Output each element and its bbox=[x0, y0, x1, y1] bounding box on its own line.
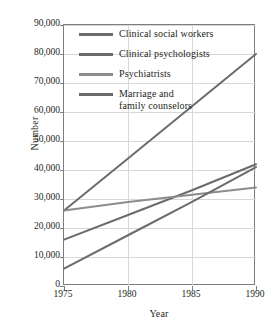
legend-label-marriage-and-family-counselors: Marriage and family counselors bbox=[119, 88, 192, 111]
series-line-psychiatrists bbox=[64, 187, 256, 210]
y-tick-label: 70,000 bbox=[14, 77, 60, 87]
legend-swatch-marriage-and-family-counselors bbox=[79, 93, 113, 96]
legend-swatch-clinical-psychologists bbox=[79, 53, 113, 56]
legend-item-psychiatrists: Psychiatrists bbox=[79, 68, 229, 83]
legend-label-clinical-social-workers: Clinical social workers bbox=[119, 28, 214, 40]
y-tick-label: 60,000 bbox=[14, 106, 60, 116]
series-line-marriage-and-family-counselors bbox=[64, 167, 256, 269]
legend-swatch-clinical-social-workers bbox=[79, 33, 113, 36]
legend-item-clinical-social-workers: Clinical social workers bbox=[79, 28, 229, 43]
legend-swatch-psychiatrists bbox=[79, 73, 113, 76]
x-tick-label: 1990 bbox=[235, 289, 273, 299]
y-tick-label: 50,000 bbox=[14, 135, 60, 145]
y-axis-tick-labels: 010,00020,00030,00040,00050,00060,00070,… bbox=[10, 0, 60, 326]
y-tick-label: 30,000 bbox=[14, 193, 60, 203]
x-tick-label: 1975 bbox=[43, 289, 83, 299]
line-chart: Number 010,00020,00030,00040,00050,00060… bbox=[0, 0, 273, 326]
legend-label-clinical-psychologists: Clinical psychologists bbox=[119, 48, 210, 60]
legend-item-marriage-and-family-counselors: Marriage and family counselors bbox=[79, 88, 229, 111]
legend-item-clinical-psychologists: Clinical psychologists bbox=[79, 48, 229, 63]
y-tick-label: 20,000 bbox=[14, 222, 60, 232]
y-tick-label: 90,000 bbox=[14, 19, 60, 29]
plot-area: Clinical social workers Clinical psychol… bbox=[63, 24, 255, 285]
x-tick-label: 1980 bbox=[107, 289, 147, 299]
legend-label-psychiatrists: Psychiatrists bbox=[119, 68, 171, 80]
legend: Clinical social workers Clinical psychol… bbox=[79, 28, 229, 116]
x-axis-title: Year bbox=[63, 308, 255, 319]
series-line-clinical-psychologists bbox=[64, 164, 256, 239]
x-tick-label: 1985 bbox=[171, 289, 211, 299]
y-tick-label: 80,000 bbox=[14, 48, 60, 58]
y-tick-label: 10,000 bbox=[14, 251, 60, 261]
y-tick-label: 40,000 bbox=[14, 164, 60, 174]
